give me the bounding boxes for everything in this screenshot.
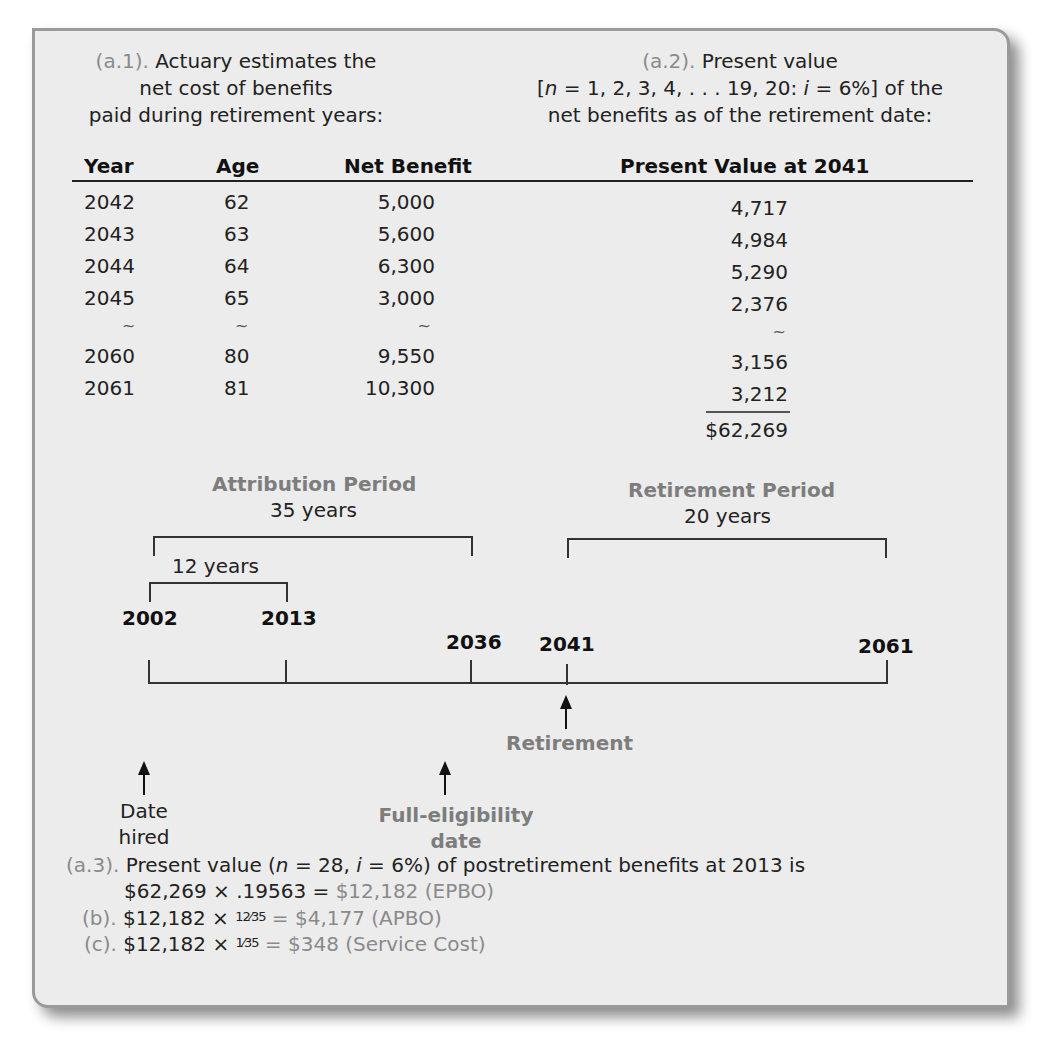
retirement-bracket — [567, 538, 887, 558]
section-a2-line2: [n = 1, 2, 3, 4, . . . 19, 20: i = 6%] o… — [530, 75, 950, 102]
section-a2-text1: Present value — [702, 49, 838, 73]
note-b-calc: $12,182 × — [123, 906, 235, 930]
var-n: n — [276, 853, 289, 877]
total-rule — [706, 411, 790, 413]
table-row-year: 2060 — [84, 344, 135, 368]
rate-suffix: = 6%] of the — [809, 76, 943, 100]
table-row-age: 65 — [224, 286, 249, 310]
table-row-year: 2043 — [84, 222, 135, 246]
table-row-age: 64 — [224, 254, 249, 278]
sub-period-bracket — [149, 582, 288, 602]
table-row-year: 2061 — [84, 376, 135, 400]
note-b-fraction: 12⁄35 — [235, 909, 265, 924]
section-a2-line1: (a.2). Present value — [530, 48, 950, 75]
table-row-net-benefit: 9,550 — [378, 344, 435, 368]
note-c-result: = $348 (Service Cost) — [259, 932, 486, 956]
table-row-year: 2042 — [84, 190, 135, 214]
tick-2013 — [285, 660, 287, 683]
section-a1-label: (a.1). — [96, 49, 149, 73]
note-b: (b). $12,182 × 12⁄35 = $4,177 (APBO) — [82, 904, 442, 931]
table-row-age: 80 — [224, 344, 249, 368]
section-a1-intro: (a.1). Actuary estimates the net cost of… — [86, 48, 386, 129]
note-a3-n-value: = 28, — [289, 853, 357, 877]
note-c: (c). $12,182 × 1⁄35 = $348 (Service Cost… — [84, 930, 486, 957]
table-row-year: 2044 — [84, 254, 135, 278]
table-row-ellipsis: ~ — [235, 316, 248, 335]
note-c-calc: $12,182 × — [123, 932, 235, 956]
retirement-period-length: 20 years — [684, 504, 771, 528]
tick-2041 — [566, 664, 568, 685]
tick-2036 — [470, 660, 472, 684]
note-a3-line2: $62,269 × .19563 = $12,182 (EPBO) — [124, 878, 494, 904]
table-row-net-benefit: 10,300 — [365, 376, 435, 400]
note-a3-label: (a.3). — [66, 853, 119, 877]
marker-date-hired: Date hired — [114, 798, 174, 850]
arrow-up-icon — [437, 761, 453, 795]
marker-full-eligibility-line2: date — [376, 828, 536, 854]
note-a3-text: Present value ( — [126, 853, 276, 877]
table-row-age: 62 — [224, 190, 249, 214]
note-b-result: = $4,177 (APBO) — [265, 906, 441, 930]
note-c-fraction: 1⁄35 — [236, 935, 259, 950]
timeline-axis — [148, 660, 888, 684]
section-a2-line3: net benefits as of the retirement date: — [530, 102, 950, 129]
note-a3-line1: (a.3). Present value (n = 28, i = 6%) of… — [66, 852, 805, 878]
table-row-age: 63 — [224, 222, 249, 246]
section-a1-text1: Actuary estimates the — [155, 49, 376, 73]
table-row-net-benefit: 3,000 — [378, 286, 435, 310]
table-row-ellipsis: ~ — [418, 316, 431, 335]
table-row-ellipsis: ~ — [773, 322, 786, 341]
marker-full-eligibility: Full-eligibility date — [376, 802, 536, 854]
header-year: Year — [84, 154, 134, 178]
marker-retirement: Retirement — [506, 730, 626, 756]
section-a2-intro: (a.2). Present value [n = 1, 2, 3, 4, . … — [530, 48, 950, 129]
table-row-net-benefit: 5,600 — [378, 222, 435, 246]
arrow-up-icon — [136, 761, 152, 795]
attribution-period-title: Attribution Period — [212, 472, 416, 496]
sub-period-length: 12 years — [172, 554, 259, 578]
year-label-hire: 2002 — [122, 606, 178, 630]
note-c-label: (c). — [84, 932, 117, 956]
present-value-total: $62,269 — [705, 418, 788, 442]
bracket-open: [ — [537, 76, 545, 100]
table-row-present-value: 3,212 — [731, 382, 788, 406]
table-row-year: 2045 — [84, 286, 135, 310]
marker-date-hired-line2: hired — [114, 824, 174, 850]
attribution-bracket — [153, 536, 473, 556]
header-rule — [72, 180, 973, 182]
n-values: = 1, 2, 3, 4, . . . 19, 20: — [558, 76, 804, 100]
header-present-value: Present Value at 2041 — [620, 154, 870, 178]
attribution-period-length: 35 years — [270, 498, 357, 522]
header-net-benefit: Net Benefit — [344, 154, 472, 178]
table-row-present-value: 5,290 — [731, 260, 788, 284]
section-a1-line2: net cost of benefits — [86, 75, 386, 102]
table-row-age: 81 — [224, 376, 249, 400]
table-row-net-benefit: 5,000 — [378, 190, 435, 214]
arrow-up-icon — [558, 695, 574, 729]
note-b-label: (b). — [82, 906, 117, 930]
year-label-current: 2013 — [261, 606, 317, 630]
marker-full-eligibility-line1: Full-eligibility — [376, 802, 536, 828]
header-age: Age — [216, 154, 259, 178]
year-label-retirement: 2041 — [539, 632, 595, 656]
table-row-present-value: 3,156 — [731, 350, 788, 374]
section-a2-label: (a.2). — [642, 49, 695, 73]
var-n: n — [545, 76, 558, 100]
retirement-period-title: Retirement Period — [628, 478, 835, 502]
table-row-present-value: 4,717 — [731, 196, 788, 220]
section-a1-line1: (a.1). Actuary estimates the — [86, 48, 386, 75]
table-row-net-benefit: 6,300 — [378, 254, 435, 278]
table-row-present-value: 4,984 — [731, 228, 788, 252]
section-a1-line3: paid during retirement years: — [86, 102, 386, 129]
year-label-end: 2061 — [858, 634, 914, 658]
marker-date-hired-line1: Date — [114, 798, 174, 824]
year-label-full-eligibility: 2036 — [446, 630, 502, 654]
note-a3-result: $12,182 (EPBO) — [336, 879, 494, 903]
note-a3-suffix: = 6%) of postretirement benefits at 2013… — [362, 853, 805, 877]
table-row-ellipsis: ~ — [122, 316, 135, 335]
note-a3-calc: $62,269 × .19563 = — [124, 879, 336, 903]
table-row-present-value: 2,376 — [731, 292, 788, 316]
